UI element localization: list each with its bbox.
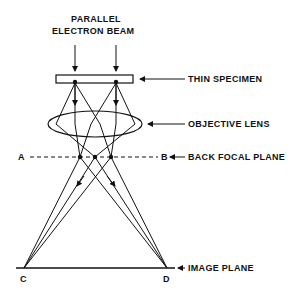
label-point-b: B [161, 152, 168, 162]
label-point-a: A [18, 152, 25, 162]
title-line1: PARALLEL [71, 14, 121, 24]
label-thin-specimen: THIN SPECIMEN [188, 74, 262, 84]
ray-diagram [0, 0, 301, 297]
label-objective-lens: OBJECTIVE LENS [188, 119, 270, 129]
label-point-d: D [163, 274, 170, 284]
title-line2: ELECTRON BEAM [52, 26, 134, 36]
thin-specimen [56, 75, 133, 83]
label-point-c: C [20, 274, 27, 284]
label-image-plane: IMAGE PLANE [188, 263, 254, 273]
label-back-focal-plane: BACK FOCAL PLANE [188, 152, 285, 162]
diagram: PARALLEL ELECTRON BEAM THIN SPECIMEN OBJ… [0, 0, 301, 297]
